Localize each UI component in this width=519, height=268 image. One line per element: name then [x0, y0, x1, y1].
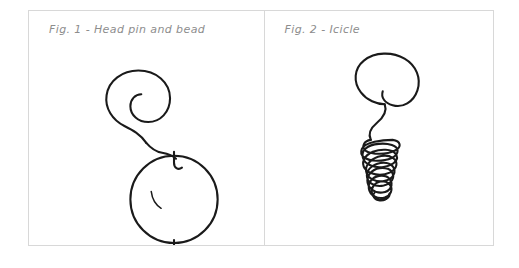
figure-art-fig-1: [29, 11, 264, 245]
figure-panel-fig-1: Fig. 1 - Head pin and bead: [29, 11, 265, 245]
bead-highlight: [151, 191, 161, 208]
tapered-coil: [361, 140, 399, 200]
spiral-wire-loop-icon: [106, 70, 170, 142]
icicle-drawing: [355, 54, 418, 201]
figure-art-fig-2: [265, 11, 494, 245]
figure-panel-fig-2: Fig. 2 - Icicle: [265, 11, 494, 245]
connector-curve: [369, 104, 385, 140]
bead-entry-hook: [174, 152, 182, 169]
head-pin-drawing: [106, 70, 217, 245]
spiral-wire-loop-icon: [355, 54, 418, 106]
figure-sheet: Fig. 1 - Head pin and bead: [28, 10, 494, 246]
bead: [130, 156, 217, 243]
